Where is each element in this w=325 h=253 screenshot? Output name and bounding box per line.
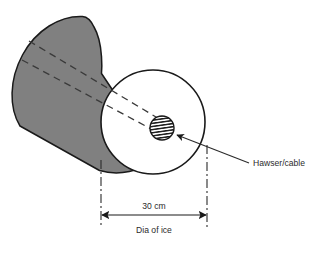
- ice-cylinder-diagram: Hawser/cable 30 cm Dia of ice: [0, 0, 325, 253]
- diagram-canvas: Hawser/cable 30 cm Dia of ice: [0, 0, 325, 253]
- hawser-cable-cross-section: [150, 116, 174, 140]
- dimension-value-label: 30 cm: [142, 201, 165, 211]
- hawser-cable-label: Hawser/cable: [253, 158, 305, 168]
- dimension-caption-label: Dia of ice: [136, 225, 172, 235]
